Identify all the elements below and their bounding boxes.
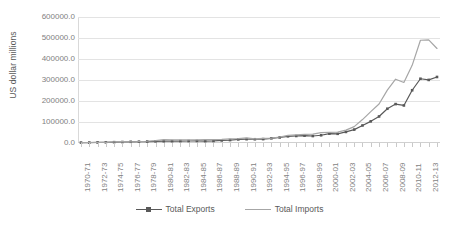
x-axis-tick-mark: [354, 143, 355, 147]
x-axis-tick-label: 1976-77: [134, 163, 142, 192]
x-axis-tick-mark: [338, 143, 339, 147]
data-point-marker: [353, 128, 356, 131]
data-point-marker: [411, 89, 414, 92]
x-axis-tick-mark: [230, 143, 231, 147]
legend-item-total-exports[interactable]: Total Exports: [136, 204, 215, 214]
x-axis-tick-mark: [271, 143, 272, 147]
data-point-marker: [427, 79, 430, 82]
x-axis-tick-mark: [189, 143, 190, 147]
x-axis-tick-mark: [362, 143, 363, 147]
x-axis-tick-mark: [247, 143, 248, 147]
x-axis-tick-mark: [371, 143, 372, 147]
chart-container: US dollar millions 0.0100000.0200000.030…: [0, 0, 459, 226]
x-axis-tick-label: 1992-93: [266, 163, 274, 192]
x-axis-tick-label: 1978-79: [150, 163, 158, 192]
y-axis-tick-label: 0.0: [20, 139, 75, 147]
x-axis-tick-mark: [106, 143, 107, 147]
data-point-marker: [336, 133, 339, 136]
x-axis-tick-label: 1984-85: [200, 163, 208, 192]
x-axis-tick-label: 1996-97: [299, 163, 307, 192]
x-axis-tick-mark: [404, 143, 405, 147]
legend-swatch: [245, 205, 271, 214]
plot-area: [78, 17, 440, 143]
x-axis-tick-label: 2012-13: [432, 163, 440, 192]
data-point-marker: [386, 107, 389, 110]
legend-label: Total Imports: [275, 204, 324, 214]
data-point-marker: [436, 76, 439, 79]
data-point-marker: [403, 104, 406, 107]
legend-item-total-imports[interactable]: Total Imports: [245, 204, 324, 214]
x-axis-tick-mark: [321, 143, 322, 147]
y-axis-tick-labels: 0.0100000.0200000.0300000.0400000.050000…: [20, 17, 75, 143]
x-axis-tick-mark: [296, 143, 297, 147]
x-axis-tick-label: 2002-03: [349, 163, 357, 192]
x-axis-tick-label: 1988-89: [233, 163, 241, 192]
x-axis-tick-label: 2006-07: [382, 163, 390, 192]
x-axis-tick-mark: [197, 143, 198, 147]
x-axis-tick-mark: [420, 143, 421, 147]
data-point-marker: [320, 134, 323, 137]
x-axis-tick-mark: [437, 143, 438, 147]
x-axis-tick-label: 2004-05: [365, 163, 373, 192]
data-point-marker: [378, 115, 381, 118]
x-axis-tick-mark: [429, 143, 430, 147]
x-axis-tick-mark: [205, 143, 206, 147]
y-axis-tick-label: 300000.0: [20, 76, 75, 84]
x-axis-tick-mark: [346, 143, 347, 147]
x-axis-tick-label: 2000-01: [332, 163, 340, 192]
x-axis-tick-mark: [81, 143, 82, 147]
series-line-total-imports: [81, 40, 437, 143]
x-axis-tick-mark: [98, 143, 99, 147]
x-axis-tick-mark: [288, 143, 289, 147]
x-axis-tick-mark: [131, 143, 132, 147]
x-axis-tick-mark: [313, 143, 314, 147]
y-axis-tick-label: 600000.0: [20, 13, 75, 21]
x-axis-tick-label: 1986-87: [216, 163, 224, 192]
x-axis-tick-label: 1980-81: [167, 163, 175, 192]
x-axis-tick-mark: [172, 143, 173, 147]
y-axis-tick-label: 200000.0: [20, 97, 75, 105]
x-axis-tick-mark: [139, 143, 140, 147]
legend-swatch: [136, 205, 162, 214]
y-axis-tick-label: 100000.0: [20, 118, 75, 126]
x-axis-tick-mark: [238, 143, 239, 147]
x-axis-tick-marks: [78, 143, 440, 147]
x-axis-tick-mark: [213, 143, 214, 147]
legend-label: Total Exports: [166, 204, 215, 214]
x-axis-tick-mark: [263, 143, 264, 147]
series-layer: [78, 17, 440, 143]
x-axis-tick-label: 1982-83: [183, 163, 191, 192]
x-axis-tick-mark: [387, 143, 388, 147]
x-axis-tick-mark: [329, 143, 330, 147]
x-axis-tick-mark: [255, 143, 256, 147]
data-point-marker: [345, 131, 348, 134]
x-axis-tick-mark: [156, 143, 157, 147]
x-axis-tick-mark: [164, 143, 165, 147]
x-axis-tick-labels: 1970-711972-731974-751976-771978-791980-…: [78, 148, 440, 196]
x-axis-tick-mark: [114, 143, 115, 147]
x-axis-tick-label: 2010-11: [415, 163, 423, 192]
x-axis-tick-mark: [280, 143, 281, 147]
x-axis-tick-mark: [396, 143, 397, 147]
x-axis-tick-label: 1990-91: [250, 163, 258, 192]
data-point-marker: [394, 103, 397, 106]
x-axis-tick-mark: [89, 143, 90, 147]
data-point-marker: [419, 77, 422, 80]
data-point-marker: [369, 120, 372, 123]
x-axis-tick-label: 1972-73: [101, 163, 109, 192]
x-axis-tick-mark: [122, 143, 123, 147]
x-axis-tick-label: 1998-99: [316, 163, 324, 192]
x-axis-tick-mark: [379, 143, 380, 147]
x-axis-tick-label: 1974-75: [117, 163, 125, 192]
x-axis-tick-mark: [305, 143, 306, 147]
data-point-marker: [312, 135, 315, 138]
x-axis-tick-mark: [222, 143, 223, 147]
x-axis-tick-mark: [412, 143, 413, 147]
x-axis-tick-label: 1970-71: [84, 163, 92, 192]
x-axis-tick-label: 1994-95: [283, 163, 291, 192]
y-axis-tick-label: 400000.0: [20, 55, 75, 63]
series-line-total-exports: [81, 77, 437, 143]
x-axis-tick-mark: [180, 143, 181, 147]
x-axis-tick-mark: [147, 143, 148, 147]
y-axis-tick-label: 500000.0: [20, 34, 75, 42]
